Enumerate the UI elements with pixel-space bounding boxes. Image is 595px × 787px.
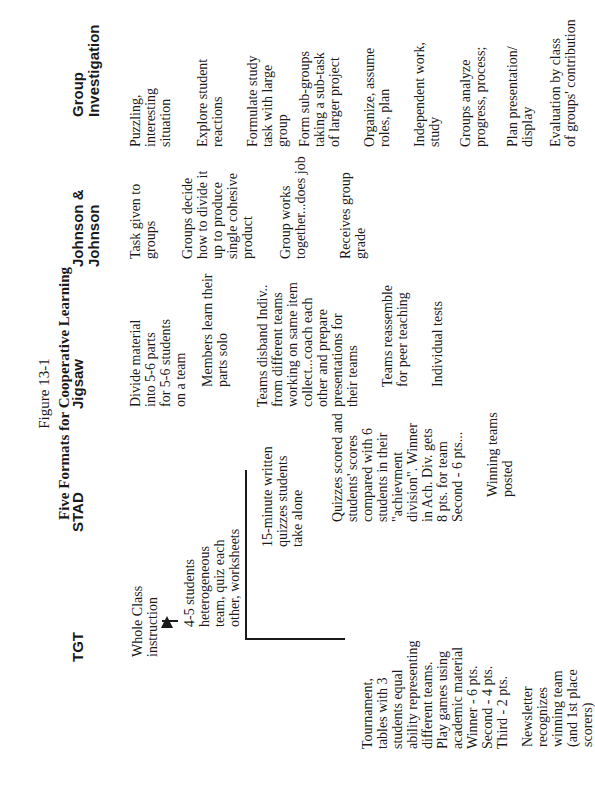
jigsaw-step-5: Individual tests — [430, 301, 445, 387]
johnson-step-1: Task given to groups — [128, 184, 158, 259]
stad-step-3: Winning teams posted — [485, 412, 515, 497]
stad-step-2: Quizzes scored and students' scores comp… — [330, 413, 465, 522]
tgt-connector-1 — [162, 620, 178, 622]
gi-step-3: Formulate study task with large group — [245, 56, 290, 147]
gi-step-7: Groups analyze progress, process; — [458, 47, 488, 147]
heading-tgt: TGT — [70, 632, 86, 662]
jigsaw-step-1: Divide material into 5-6 parts for 5-6 s… — [128, 319, 188, 407]
jigsaw-step-4: Teams reassemble for peer teaching — [380, 285, 410, 387]
jigsaw-step-3: Teams disband Indiv.. from different tea… — [255, 282, 360, 407]
heading-group-investigation: Group Investigation — [70, 24, 102, 117]
jigsaw-step-2: Members learn their parts solo — [200, 273, 230, 387]
tgt-stad-branch-top — [245, 470, 247, 640]
gi-step-4: Form sub-groups taking a sub-task of lar… — [297, 51, 342, 147]
heading-johnson: Johnson & Johnson — [70, 190, 102, 268]
gi-step-8: Plan presentation/ display — [505, 46, 535, 147]
gi-step-1: Puzzling, interesting situation — [128, 88, 173, 147]
stad-step-1: 15-minute written quizzes students take … — [260, 446, 305, 547]
heading-jigsaw: Jigsaw — [70, 359, 86, 409]
tgt-step-4: Newsletter recognizes winning team (and … — [520, 669, 595, 747]
gi-step-9: Evaluation by class of groups' contribut… — [548, 19, 578, 147]
tgt-stad-branch-line — [245, 638, 345, 640]
gi-step-5: Organize, assume roles, plan — [362, 48, 392, 147]
tgt-step-1: Whole Class instruction — [130, 586, 160, 657]
tgt-step-2: 4-5 students heterogeneous team, quiz ea… — [182, 529, 242, 627]
johnson-step-3: Group works together...does job — [278, 156, 308, 259]
figure-number: Figure 13-1 — [36, 0, 53, 787]
johnson-step-2: Groups decide how to divide it up to pro… — [180, 171, 255, 259]
johnson-step-4: Receives group grade — [338, 172, 368, 259]
tgt-step-3: Tournament, tables with 3 students equal… — [360, 641, 510, 749]
gi-step-2: Explore student reactions — [195, 59, 225, 147]
gi-step-6: Independent work, study — [412, 42, 442, 147]
heading-stad: STAD — [70, 492, 86, 532]
